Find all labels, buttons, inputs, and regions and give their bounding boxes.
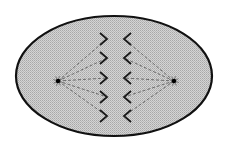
cell-division-diagram	[0, 0, 228, 141]
left-centrosome-icon	[56, 79, 60, 83]
cell-membrane	[16, 16, 212, 136]
right-centrosome-icon	[172, 79, 176, 83]
